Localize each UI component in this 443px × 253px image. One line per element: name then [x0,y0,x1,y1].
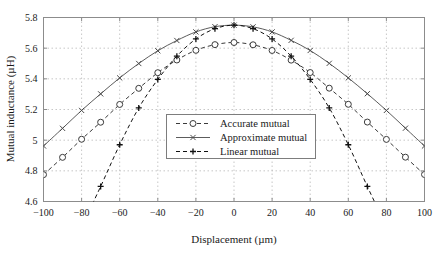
data-marker-circle [307,70,313,76]
y-tick-label: 5 [33,135,38,146]
data-marker-circle [269,47,275,53]
chart-figure: −100−80−60−40−20020406080100 4.64.855.25… [0,0,443,253]
data-marker-circle [326,85,332,91]
legend-label-accurate-mutual: Accurate mutual [220,118,290,129]
data-marker-circle [136,85,142,91]
y-tick-label: 5.8 [25,12,38,23]
data-marker-circle [117,101,123,107]
y-tick-label: 5.2 [25,104,38,115]
x-tick-label: 20 [267,207,277,218]
x-tick-label: −40 [150,207,166,218]
data-marker-circle [193,47,199,53]
x-tick-label: 40 [305,207,315,218]
x-tick-label: −80 [74,207,90,218]
chart-legend[interactable]: Accurate mutualApproximate mutualLinear … [167,115,316,159]
y-tick-label: 4.6 [25,196,38,207]
x-axis-label: Displacement (µm) [191,233,277,246]
x-tick-label: 80 [381,207,391,218]
chart-canvas: −100−80−60−40−20020406080100 4.64.855.25… [0,0,443,253]
x-tick-label: 100 [417,207,432,218]
y-tick-label: 4.8 [25,165,38,176]
data-marker-circle [98,119,104,125]
data-marker-circle [383,136,389,142]
data-marker-circle [212,42,218,48]
data-marker-circle [231,39,237,45]
y-axis-label: Mutual inductance (µH) [4,55,17,162]
data-marker-circle [345,101,351,107]
x-tick-label: 0 [232,207,237,218]
data-marker-circle [250,42,256,48]
data-marker-circle [79,136,85,142]
data-marker-circle [155,70,161,76]
data-marker-circle [190,121,196,127]
legend-label-approximate-mutual: Approximate mutual [220,132,307,143]
y-tick-label: 5.4 [25,73,38,84]
legend-label-linear-mutual: Linear mutual [220,146,279,157]
x-tick-label: −100 [33,207,54,218]
x-tick-label: −60 [112,207,128,218]
data-marker-circle [364,119,370,125]
data-marker-circle [60,154,66,160]
x-tick-label: 60 [343,207,353,218]
y-tick-label: 5.6 [25,43,38,54]
x-tick-label: −20 [188,207,204,218]
data-marker-circle [402,154,408,160]
